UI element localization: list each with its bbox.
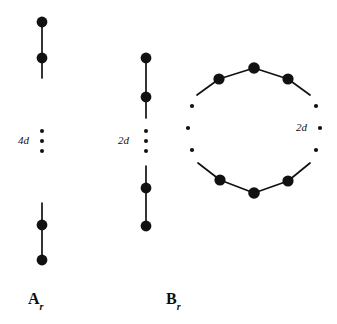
ellipsis-dot	[314, 104, 318, 108]
ellipsis-dot	[186, 126, 190, 130]
node	[248, 62, 260, 74]
node	[214, 174, 225, 185]
ellipsis-dot	[190, 148, 194, 152]
caption-ar-subscript: r	[40, 301, 44, 312]
diagram-group	[37, 17, 323, 266]
node	[37, 53, 48, 64]
ellipsis-dot	[144, 129, 148, 133]
node	[37, 220, 48, 231]
node	[141, 221, 152, 232]
ellipsis-dot	[318, 126, 322, 130]
multiplicity-label-cycle: 2d	[296, 122, 307, 133]
multiplicity-label-br: 2d	[118, 135, 129, 146]
node	[141, 53, 152, 64]
caption-br-base: B	[166, 290, 177, 307]
node	[37, 17, 48, 28]
node	[37, 255, 48, 266]
ellipsis-dot	[144, 139, 148, 143]
node	[282, 73, 293, 84]
caption-br-subscript: r	[177, 301, 181, 312]
node	[141, 92, 152, 103]
ellipsis-dot	[190, 104, 194, 108]
ellipsis-dot	[144, 149, 148, 153]
dynkin-diagram-svg	[0, 0, 337, 324]
ellipsis-dot	[40, 139, 44, 143]
node	[213, 73, 224, 84]
node	[141, 183, 152, 194]
node	[248, 187, 260, 199]
figure-canvas: 4d 2d 2d Ar Br	[0, 0, 337, 324]
caption-ar-base: A	[28, 290, 40, 307]
diagram-A_r	[37, 17, 48, 266]
multiplicity-label-ar: 4d	[18, 135, 29, 146]
diagram-B_r	[141, 53, 152, 232]
caption-ar: Ar	[28, 291, 43, 310]
node	[282, 175, 293, 186]
ellipsis-dot	[40, 149, 44, 153]
ellipsis-dot	[40, 129, 44, 133]
caption-br: Br	[166, 291, 181, 310]
ellipsis-dot	[314, 148, 318, 152]
